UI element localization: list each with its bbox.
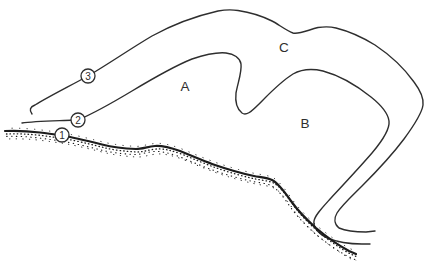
region-label-a: A — [180, 79, 189, 94]
diagram: A B C 1 2 3 — [0, 0, 429, 261]
marker-1-digit: 1 — [59, 130, 65, 141]
region-label-c: C — [279, 40, 289, 55]
circled-marker-3: 3 — [81, 69, 95, 83]
circled-marker-1: 1 — [55, 128, 69, 142]
marker-2-digit: 2 — [75, 115, 81, 126]
region-label-b: B — [300, 116, 309, 131]
marker-3-digit: 3 — [85, 71, 91, 82]
diagram-canvas: A B C 1 2 3 — [0, 0, 429, 261]
circled-marker-2: 2 — [71, 113, 85, 127]
